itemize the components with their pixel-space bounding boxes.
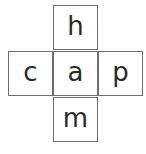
cell-left-letter: c (23, 59, 37, 85)
cell-top: h (53, 5, 98, 50)
cell-right-letter: p (112, 59, 129, 85)
cell-center: a (53, 51, 98, 96)
cell-bottom: m (53, 97, 98, 142)
cell-bottom-letter: m (63, 105, 88, 131)
cell-center-letter: a (68, 59, 84, 85)
cell-left: c (8, 51, 53, 96)
cell-top-letter: h (67, 13, 83, 39)
cell-right: p (98, 51, 143, 96)
